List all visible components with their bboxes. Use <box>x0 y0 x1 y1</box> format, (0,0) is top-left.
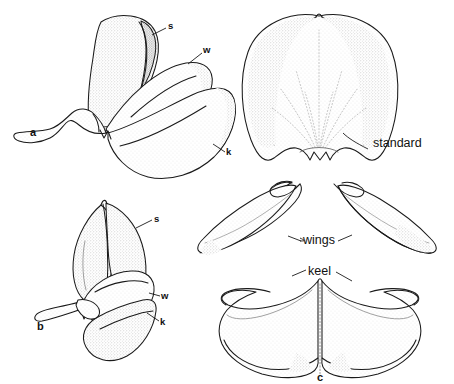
callout-keel: keel <box>308 265 331 278</box>
callout-standard: standard <box>373 137 422 150</box>
botanical-plate <box>0 0 454 384</box>
key-label-k-panel-a: k <box>226 147 231 157</box>
key-label-k-panel-b: k <box>160 317 165 327</box>
panel-label-c: c <box>317 372 323 383</box>
key-label-w-panel-b: w <box>161 291 168 301</box>
key-label-w-panel-a: w <box>203 45 210 55</box>
key-label-s-panel-b: s <box>154 214 159 224</box>
panel-c-keel <box>219 279 420 378</box>
key-label-s-panel-a: s <box>168 21 173 31</box>
panel-label-a: a <box>30 127 36 138</box>
callout-wings: wings <box>303 234 335 247</box>
panel-label-b: b <box>37 321 44 332</box>
